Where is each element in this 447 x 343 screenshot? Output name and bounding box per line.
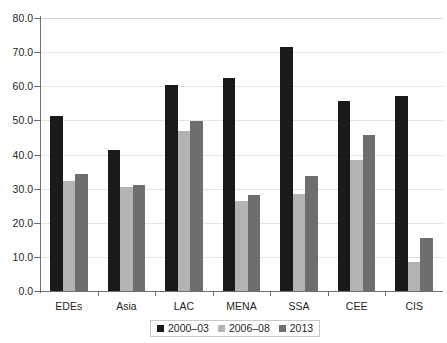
x-axis-line	[40, 291, 443, 292]
legend-label: 2006–08	[229, 323, 270, 334]
bar-asia-2000-03	[108, 150, 121, 291]
legend-item-2000-03: 2000–03	[157, 323, 209, 334]
x-axis-tick-label-asia: Asia	[98, 300, 156, 312]
y-axis-tick-mark	[34, 52, 40, 53]
plot-area	[40, 18, 443, 291]
x-axis-tick-label-cis: CIS	[385, 300, 443, 312]
gridline	[40, 52, 443, 53]
y-axis-tick-mark	[34, 291, 40, 292]
gridline	[40, 86, 443, 87]
bar-edes-2000-03	[50, 116, 63, 291]
legend-label: 2000–03	[168, 323, 209, 334]
legend-item-2013: 2013	[279, 323, 313, 334]
bar-ssa-2000-03	[280, 47, 293, 291]
legend-swatch-icon	[157, 325, 164, 332]
gridline	[40, 18, 443, 19]
y-axis-tick-label: 40.0	[0, 150, 33, 161]
bar-lac-2006-08	[178, 131, 191, 291]
legend-label: 2013	[290, 323, 313, 334]
legend-item-2006-08: 2006–08	[218, 323, 270, 334]
x-axis-tick-label-lac: LAC	[155, 300, 213, 312]
bar-asia-2013	[133, 185, 146, 291]
bar-cee-2006-08	[350, 160, 363, 291]
bar-mena-2013	[248, 195, 261, 291]
bar-cis-2000-03	[395, 96, 408, 291]
y-axis-tick-mark	[34, 155, 40, 156]
bar-lac-2000-03	[165, 85, 178, 291]
bar-ssa-2013	[305, 176, 318, 291]
y-axis-tick-mark	[34, 223, 40, 224]
y-axis-tick-mark	[34, 18, 40, 19]
y-axis-tick-label: 70.0	[0, 47, 33, 58]
bar-edes-2013	[75, 174, 88, 291]
y-axis-tick-label: 0.0	[0, 286, 33, 297]
y-axis-tick-mark	[34, 86, 40, 87]
x-axis-tick-mark	[270, 291, 271, 296]
bar-chart: 0.010.020.030.040.050.060.070.080.0 EDEs…	[0, 0, 447, 343]
x-axis-tick-label-ssa: SSA	[270, 300, 328, 312]
bar-ssa-2006-08	[293, 194, 306, 291]
legend-swatch-icon	[218, 325, 225, 332]
bar-mena-2006-08	[235, 201, 248, 291]
y-axis-tick-mark	[34, 189, 40, 190]
x-axis-tick-mark	[328, 291, 329, 296]
bar-lac-2013	[190, 121, 203, 291]
y-axis-line	[40, 16, 41, 293]
y-axis-tick-label: 80.0	[0, 13, 33, 24]
legend-swatch-icon	[279, 325, 286, 332]
gridline	[40, 189, 443, 190]
x-axis-tick-label-edes: EDEs	[40, 300, 98, 312]
bar-edes-2006-08	[63, 181, 76, 291]
bar-cee-2000-03	[338, 101, 351, 291]
gridline	[40, 120, 443, 121]
bar-cee-2013	[363, 135, 376, 291]
y-axis-tick-label: 30.0	[0, 184, 33, 195]
gridline	[40, 155, 443, 156]
y-axis-tick-label: 20.0	[0, 218, 33, 229]
chart-legend: 2000–032006–082013	[150, 320, 320, 337]
x-axis-tick-label-cee: CEE	[328, 300, 386, 312]
bar-mena-2000-03	[223, 78, 236, 291]
y-axis-tick-label: 60.0	[0, 81, 33, 92]
y-axis-tick-mark	[34, 257, 40, 258]
bar-asia-2006-08	[120, 187, 133, 291]
x-axis-tick-label-mena: MENA	[213, 300, 271, 312]
x-axis-tick-mark	[98, 291, 99, 296]
x-axis-tick-mark	[155, 291, 156, 296]
y-axis-tick-label: 50.0	[0, 115, 33, 126]
x-axis-tick-mark	[213, 291, 214, 296]
bar-cis-2006-08	[408, 262, 421, 291]
y-axis-tick-label: 10.0	[0, 252, 33, 263]
y-axis-tick-mark	[34, 120, 40, 121]
x-axis-tick-mark	[385, 291, 386, 296]
bar-cis-2013	[420, 238, 433, 291]
